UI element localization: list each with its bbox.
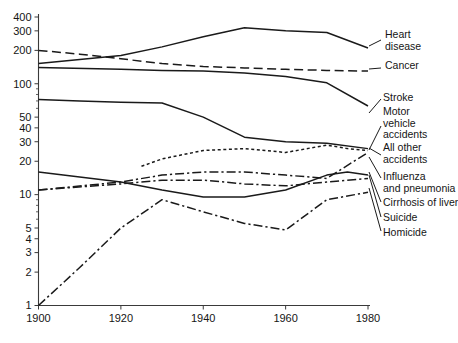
series-label-homicide-line1: Homicide <box>383 227 427 239</box>
series-label-suicide: Suicide <box>383 212 417 224</box>
leader-line-stroke <box>369 99 381 113</box>
x-tick-label-1980: 1980 <box>356 312 380 324</box>
y-tick-label-20: 20 <box>19 155 31 167</box>
series-line-suicide <box>39 178 369 190</box>
x-axis: 19001920194019601980 <box>26 306 380 324</box>
y-tick-label-2: 2 <box>25 266 31 278</box>
series-label-cancer-line1: Cancer <box>385 60 419 72</box>
y-tick-label-1: 1 <box>25 299 31 311</box>
series-label-all-other-line1: All other <box>383 142 427 154</box>
series-label-influenza-line1: Influenza <box>383 171 455 183</box>
series-label-all-other-accidents: All other accidents <box>383 142 427 165</box>
leader-line-influenza <box>369 157 381 178</box>
y-tick-label-30: 30 <box>19 136 31 148</box>
y-tick-label-5: 5 <box>25 222 31 234</box>
x-tick-label-1900: 1900 <box>26 312 50 324</box>
x-axis-tick-labels: 19001920194019601980 <box>26 312 380 324</box>
x-tick-label-1920: 1920 <box>109 312 133 324</box>
series-label-cancer: Cancer <box>385 60 419 72</box>
x-tick-label-1940: 1940 <box>191 312 215 324</box>
series-label-cirrhosis-of-liver: Cirrhosis of liver <box>383 197 458 209</box>
leader-line-heart-disease <box>369 40 381 46</box>
series-label-cirrhosis-line1: Cirrhosis of liver <box>383 197 458 209</box>
series-line-all-other-accidents <box>39 100 369 149</box>
y-tick-label-4: 4 <box>25 233 31 245</box>
data-series-group <box>39 28 369 306</box>
series-label-homicide: Homicide <box>383 227 427 239</box>
y-tick-label-400: 400 <box>13 11 31 23</box>
series-label-all-other-line2: accidents <box>383 154 427 166</box>
y-tick-label-50: 50 <box>19 111 31 123</box>
x-tick-label-1960: 1960 <box>273 312 297 324</box>
leader-line-all-other-accidents <box>369 148 381 155</box>
y-axis-ticks <box>35 17 39 306</box>
leader-line-cancer <box>369 68 381 69</box>
series-line-homicide <box>39 192 369 305</box>
series-line-influenza-and-pneumonia <box>39 152 369 190</box>
y-axis: 123451020304050100200300400 <box>13 11 38 312</box>
series-label-suicide-line1: Suicide <box>383 212 417 224</box>
x-axis-ticks <box>39 306 369 310</box>
series-line-stroke <box>39 68 369 106</box>
series-line-cirrhosis-of-liver <box>39 172 369 197</box>
y-tick-label-100: 100 <box>13 78 31 90</box>
label-leader-lines <box>369 40 381 231</box>
y-tick-label-200: 200 <box>13 44 31 56</box>
series-label-influenza-line2: and pneumonia <box>383 183 455 195</box>
series-label-motor-vehicle-line1: Motor <box>383 106 427 118</box>
series-line-motor-vehicle-accidents <box>141 145 368 166</box>
y-axis-tick-labels: 123451020304050100200300400 <box>13 11 31 312</box>
series-label-stroke: Stroke <box>383 92 413 104</box>
y-tick-label-10: 10 <box>19 188 31 200</box>
series-line-heart-disease <box>39 28 369 64</box>
series-label-motor-vehicle-line3: accidents <box>383 129 427 141</box>
series-label-stroke-line1: Stroke <box>383 92 413 104</box>
series-label-heart-disease-line2: disease <box>385 41 421 53</box>
series-label-heart-disease-line1: Heart <box>385 29 421 41</box>
series-label-influenza-and-pneumonia: Influenza and pneumonia <box>383 171 455 194</box>
leader-line-motor-vehicle <box>369 126 381 150</box>
series-label-motor-vehicle-accidents: Motor vehicle accidents <box>383 106 427 141</box>
y-tick-label-300: 300 <box>13 25 31 37</box>
y-tick-label-40: 40 <box>19 122 31 134</box>
y-tick-label-3: 3 <box>25 246 31 258</box>
series-label-heart-disease: Heart disease <box>385 29 421 52</box>
